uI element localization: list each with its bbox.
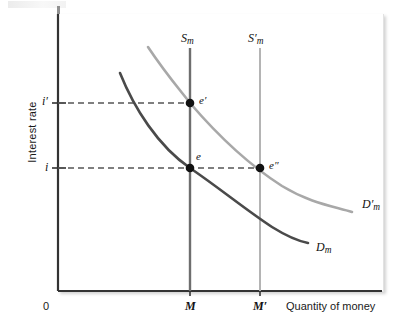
curve-label-dm: Dm xyxy=(316,240,331,255)
demand-curve-dm xyxy=(120,73,308,243)
curve-label-dm-prime: D′m xyxy=(362,197,380,212)
x-axis-label: Quantity of money xyxy=(286,300,375,312)
money-market-diagram: Interest rate Quantity of money 0 i′ i M… xyxy=(0,0,396,326)
equilibrium-point-e xyxy=(186,164,195,173)
point-label-e-double-prime: e″ xyxy=(269,159,278,171)
origin-label: 0 xyxy=(43,300,49,312)
point-label-e-prime: e′ xyxy=(199,94,206,106)
y-axis-label: Interest rate xyxy=(26,72,38,192)
tick-label-M-prime: M′ xyxy=(253,299,267,314)
plot-svg xyxy=(0,0,396,326)
demand-curve-dm-prime xyxy=(148,47,352,212)
curve-label-sm-prime: S′m xyxy=(248,31,263,46)
curve-label-sm: Sm xyxy=(181,31,194,46)
point-label-e: e xyxy=(196,150,201,162)
tick-label-i-prime: i′ xyxy=(42,94,48,109)
equilibrium-point-e-prime xyxy=(186,99,195,108)
tick-label-M: M xyxy=(185,299,196,314)
equilibrium-point-e-double-prime xyxy=(256,164,265,173)
tick-label-i: i xyxy=(45,160,48,175)
